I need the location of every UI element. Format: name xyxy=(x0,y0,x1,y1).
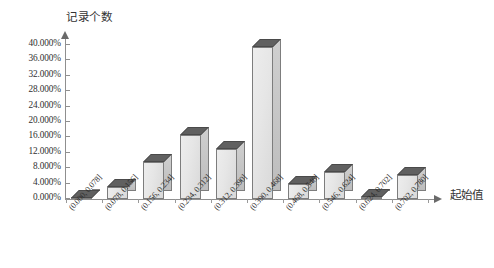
x-axis-tick-mark xyxy=(356,199,357,203)
x-axis-tick-mark xyxy=(392,199,393,203)
y-axis-tick-label: 0.000% xyxy=(33,192,61,202)
y-axis-tick-mark xyxy=(66,106,70,107)
y-axis-tick-label: 16.000% xyxy=(28,130,61,140)
y-axis-tick-label: 32.000% xyxy=(28,69,61,79)
y-axis-tick-label: 28.000% xyxy=(28,84,61,94)
y-axis-tick-label: 40.000% xyxy=(28,38,61,48)
x-axis-tick-mark xyxy=(283,199,284,203)
x-axis-tick-mark xyxy=(247,199,248,203)
y-axis-arrow-icon xyxy=(61,31,69,39)
y-axis-tick-mark xyxy=(66,59,70,60)
y-axis-tick-label: 36.000% xyxy=(28,53,61,63)
y-axis-tick-mark xyxy=(66,167,70,168)
y-axis-line xyxy=(65,38,66,200)
x-axis-arrow-icon xyxy=(434,195,442,203)
y-axis-tick-mark xyxy=(66,90,70,91)
y-axis-tick-label: 24.000% xyxy=(28,100,61,110)
y-axis-tick-mark xyxy=(66,136,70,137)
x-axis-tick-mark xyxy=(175,199,176,203)
y-axis-tick-label: 4.000% xyxy=(33,177,61,187)
histogram-chart: 记录个数 起始值 0.000%4.000%8.000%12.000%16.000… xyxy=(0,0,494,268)
bar-front-face xyxy=(252,47,273,199)
x-axis-title: 起始值 xyxy=(450,186,483,202)
y-axis-tick-mark xyxy=(66,44,70,45)
y-axis-tick-mark xyxy=(66,183,70,184)
y-axis-tick-mark xyxy=(66,152,70,153)
y-axis-tick-label: 20.000% xyxy=(28,115,61,125)
y-axis-tick-mark xyxy=(66,121,70,122)
y-axis-title: 记录个数 xyxy=(66,8,112,24)
bar-side-face xyxy=(273,39,281,191)
y-axis-tick-mark xyxy=(66,75,70,76)
x-axis-tick-mark xyxy=(319,199,320,203)
x-axis-tick-mark xyxy=(428,199,429,203)
y-axis-tick-label: 8.000% xyxy=(33,161,61,171)
y-axis-tick-label: 12.000% xyxy=(28,146,61,156)
x-axis-tick-mark xyxy=(66,199,67,203)
x-axis-tick-mark xyxy=(102,199,103,203)
x-axis-tick-mark xyxy=(138,199,139,203)
x-axis-tick-mark xyxy=(211,199,212,203)
